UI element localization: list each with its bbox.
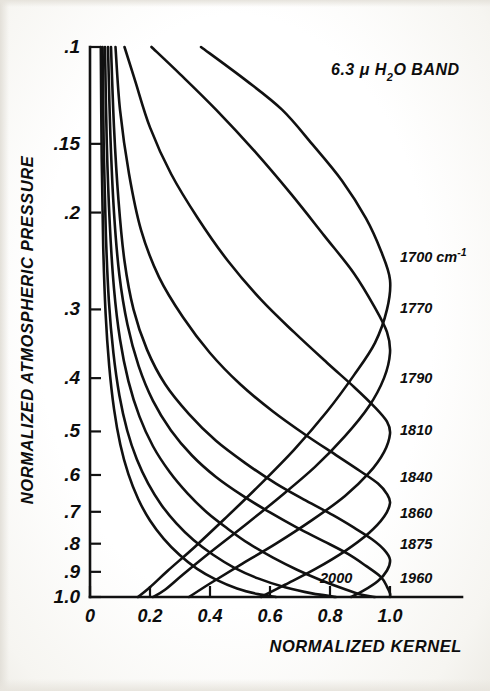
y-tick-label-4: .4 <box>64 367 80 388</box>
curve-label-0: 1700 cm-1 <box>400 246 467 265</box>
curve-label-3: 1810 <box>400 422 432 438</box>
curve-label-5: 1860 <box>400 505 432 521</box>
curve-label-6: 1875 <box>400 536 433 552</box>
curve-label-1: 1770 <box>400 300 432 316</box>
curve-group <box>101 47 391 597</box>
y-tick-label-1: .15 <box>54 133 81 154</box>
y-tick-label-8: .8 <box>64 533 80 554</box>
x-tick-label-1: 0.2 <box>137 606 162 626</box>
y-tick-label-6: .6 <box>64 464 80 485</box>
x-tick-group <box>90 586 390 597</box>
y-tick-label-7: .7 <box>64 501 81 522</box>
y-tick-label-10: 1.0 <box>54 586 81 607</box>
kernel-plot: .1.15.2.3.4.5.6.7.8.91.0 00.20.40.60.81.… <box>0 0 490 691</box>
y-tick-label-5: .5 <box>64 420 80 441</box>
curve-label-group: 1700 cm-11770179018101840186018751960200… <box>319 246 467 586</box>
curve-label-8: 2000 <box>319 570 352 586</box>
x-tick-label-5: 1.0 <box>377 606 402 626</box>
y-tick-label-group: .1.15.2.3.4.5.6.7.8.91.0 <box>54 36 82 607</box>
kernel-curve-1840 <box>111 47 390 597</box>
kernel-curve-1700-cm-1 <box>138 47 390 597</box>
y-tick-group <box>90 47 101 597</box>
y-axis-title: NORMALIZED ATMOSPHERIC PRESSURE <box>18 155 36 504</box>
figure-page: .1.15.2.3.4.5.6.7.8.91.0 00.20.40.60.81.… <box>0 0 490 691</box>
curve-label-7: 1960 <box>400 570 432 586</box>
curve-label-2: 1790 <box>400 370 432 386</box>
y-tick-label-2: .2 <box>64 202 80 223</box>
x-tick-label-0: 0 <box>85 606 95 626</box>
y-tick-label-3: .3 <box>64 298 80 319</box>
y-tick-label-0: .1 <box>64 36 80 57</box>
x-tick-label-group: 00.20.40.60.81.0 <box>85 606 403 626</box>
x-tick-label-2: 0.4 <box>197 606 222 626</box>
figure-title: 6.3 μ H2O BAND <box>331 61 460 83</box>
x-tick-label-4: 0.8 <box>317 606 342 626</box>
x-axis-title: NORMALIZED KERNEL <box>269 637 462 655</box>
y-tick-label-9: .9 <box>64 561 80 582</box>
x-tick-label-3: 0.6 <box>257 606 283 626</box>
kernel-curve-1810 <box>116 47 391 597</box>
curve-label-4: 1840 <box>400 469 432 485</box>
